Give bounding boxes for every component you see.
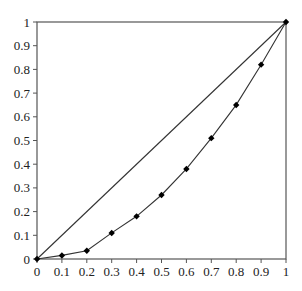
x-tick-label: 0	[34, 264, 41, 279]
x-tick-label: 0.6	[178, 264, 195, 279]
y-tick-label: 1	[24, 15, 31, 30]
x-tick-label: 0.2	[79, 264, 95, 279]
diamond-marker-icon	[59, 252, 65, 258]
y-tick-label: 0.2	[14, 204, 30, 219]
x-tick-label: 0.1	[54, 264, 70, 279]
x-tick-label: 0.9	[253, 264, 269, 279]
x-axis: 00.10.20.30.40.50.60.70.80.91	[34, 259, 290, 279]
x-tick-label: 1	[283, 264, 290, 279]
lorenz-chart: 00.10.20.30.40.50.60.70.80.91 00.10.20.3…	[0, 0, 302, 291]
equality-line	[37, 22, 286, 259]
x-tick-label: 0.4	[128, 264, 145, 279]
y-tick-label: 0.7	[14, 86, 31, 101]
x-tick-label: 0.3	[104, 264, 120, 279]
y-tick-label: 0.8	[14, 62, 30, 77]
y-tick-label: 0.3	[14, 180, 30, 195]
y-tick-label: 0	[24, 252, 31, 267]
y-tick-label: 0.5	[14, 133, 30, 148]
diamond-marker-icon	[258, 61, 264, 67]
y-tick-label: 0.1	[14, 228, 30, 243]
y-tick-label: 0.6	[14, 109, 31, 124]
x-tick-label: 0.7	[203, 264, 220, 279]
x-tick-label: 0.8	[228, 264, 244, 279]
series-layer	[34, 19, 289, 262]
y-tick-label: 0.9	[14, 38, 30, 53]
y-axis: 00.10.20.30.40.50.60.70.80.91	[14, 15, 37, 267]
y-tick-label: 0.4	[14, 157, 31, 172]
x-tick-label: 0.5	[153, 264, 169, 279]
